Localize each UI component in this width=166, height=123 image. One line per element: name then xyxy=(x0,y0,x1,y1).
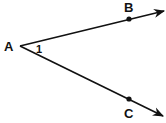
ray-ac xyxy=(20,46,163,116)
point-c xyxy=(126,96,131,101)
vertex-label-a: A xyxy=(4,39,14,54)
angle-label: 1 xyxy=(36,43,42,55)
point-b xyxy=(126,16,131,21)
point-label-b: B xyxy=(124,0,133,15)
ray-ab xyxy=(20,11,164,46)
point-label-c: C xyxy=(124,106,134,121)
angle-diagram: A 1 B C xyxy=(0,0,166,123)
